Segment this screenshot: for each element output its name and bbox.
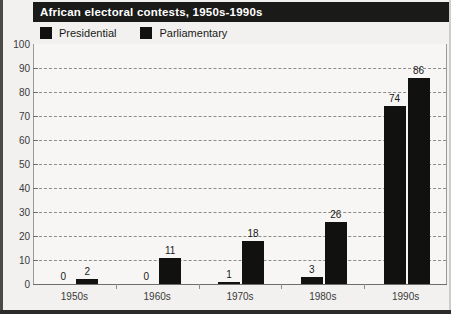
bar-1990s-presidential (384, 106, 406, 284)
y-axis-tick-value: 70 (19, 110, 33, 121)
legend-item-presidential: Presidential (40, 27, 116, 39)
y-axis-tick-value: 40 (19, 182, 33, 193)
bar-value-label: 0 (61, 271, 67, 282)
bar-1990s-parliamentary (408, 78, 430, 284)
bar-1980s-presidential (301, 277, 323, 284)
y-axis-tick-mark (33, 188, 38, 189)
y-axis-tick-mark (33, 92, 38, 93)
legend-item-parliamentary: Parliamentary (140, 27, 227, 39)
chart-title-bar: African electoral contests, 1950s-1990s (33, 2, 449, 22)
bar-value-label: 2 (85, 266, 91, 277)
y-axis-tick-mark (33, 260, 38, 261)
x-axis-label-1990s: 1990s (392, 291, 419, 302)
y-axis-tick-mark (33, 212, 38, 213)
bar-1980s-parliamentary (325, 222, 347, 284)
y-axis-tick-value: 50 (19, 158, 33, 169)
x-axis-label-1970s: 1970s (226, 291, 253, 302)
frame-bottom-border (0, 310, 451, 314)
bar-value-label: 86 (413, 65, 424, 76)
y-axis: 0102030405060708090100 (0, 44, 33, 284)
y-axis-tick-mark (33, 116, 38, 117)
bar-value-label: 26 (330, 209, 341, 220)
y-axis-tick-value: 60 (19, 134, 33, 145)
bar-1970s-parliamentary (242, 241, 264, 284)
plot-area: 020111183267486 (33, 44, 447, 284)
y-axis-tick-value: 80 (19, 86, 33, 97)
y-axis-tick-value: 20 (19, 230, 33, 241)
chart-legend: PresidentialParliamentary (33, 22, 449, 44)
y-axis-tick-mark (33, 140, 38, 141)
x-axis-label-1980s: 1980s (309, 291, 336, 302)
legend-label: Presidential (59, 27, 116, 39)
bar-1960s-parliamentary (159, 258, 181, 284)
x-axis-tick-mark (199, 284, 200, 289)
bar-value-label: 74 (389, 93, 400, 104)
y-axis-tick-mark (33, 236, 38, 237)
x-axis-tick-mark (116, 284, 117, 289)
legend-label: Parliamentary (159, 27, 227, 39)
y-axis-tick-mark (33, 68, 38, 69)
x-axis-tick-mark (281, 284, 282, 289)
x-axis-tick-mark (364, 284, 365, 289)
bar-value-label: 11 (165, 245, 175, 256)
legend-swatch-icon (140, 27, 152, 39)
chart-title: African electoral contests, 1950s-1990s (33, 6, 263, 18)
y-axis-tick-value: 100 (13, 38, 33, 49)
bars-layer: 020111183267486 (34, 44, 446, 284)
bar-value-label: 18 (247, 228, 258, 239)
y-axis-tick-value: 0 (24, 278, 33, 289)
x-axis-label-1950s: 1950s (61, 291, 88, 302)
bar-value-label: 1 (226, 269, 232, 280)
x-axis-line (33, 284, 447, 285)
chart-container: African electoral contests, 1950s-1990s … (0, 0, 451, 314)
bar-value-label: 0 (143, 271, 149, 282)
y-axis-tick-value: 30 (19, 206, 33, 217)
legend-swatch-icon (40, 27, 52, 39)
bar-value-label: 3 (309, 264, 315, 275)
y-axis-tick-value: 90 (19, 62, 33, 73)
y-axis-tick-mark (33, 164, 38, 165)
x-axis-labels: 1950s1960s1970s1980s1990s (33, 291, 447, 309)
y-axis-tick-value: 10 (19, 254, 33, 265)
x-axis-label-1960s: 1960s (144, 291, 171, 302)
